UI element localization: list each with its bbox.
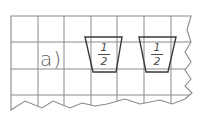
task-label: a) bbox=[40, 47, 62, 71]
fraction-bar bbox=[151, 54, 163, 55]
fraction-denominator: 2 bbox=[150, 56, 164, 67]
fraction-numerator: 1 bbox=[97, 42, 111, 53]
graph-paper bbox=[0, 0, 211, 138]
fraction-denominator: 2 bbox=[97, 56, 111, 67]
fraction-numerator: 1 bbox=[150, 42, 164, 53]
grid bbox=[0, 0, 211, 138]
fraction-label: 1 2 bbox=[150, 42, 164, 67]
fraction-label: 1 2 bbox=[97, 42, 111, 67]
fraction-bar bbox=[98, 54, 110, 55]
